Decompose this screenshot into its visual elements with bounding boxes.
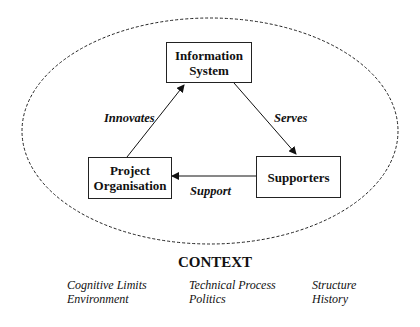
node-label-line1: Project: [94, 163, 167, 178]
context-item: Structure: [312, 278, 356, 292]
context-item: Environment: [67, 292, 147, 306]
context-item: Politics: [189, 292, 276, 306]
context-column-3: Structure History: [312, 278, 356, 306]
node-label: Supporters: [267, 170, 329, 185]
context-item: History: [312, 292, 356, 306]
edge-label-serves: Serves: [274, 111, 307, 126]
node-project-organisation: Project Organisation: [88, 157, 172, 199]
context-item: Cognitive Limits: [67, 278, 147, 292]
context-column-1: Cognitive Limits Environment: [67, 278, 147, 306]
node-label-line2: Organisation: [94, 178, 167, 193]
node-label-line2: System: [175, 63, 243, 78]
context-title: CONTEXT: [0, 254, 420, 271]
node-information-system: Information System: [166, 42, 252, 83]
node-label-line1: Information: [175, 48, 243, 63]
edge-label-support: Support: [190, 184, 231, 199]
node-supporters: Supporters: [256, 156, 341, 198]
context-item: Technical Process: [189, 278, 276, 292]
context-column-2: Technical Process Politics: [189, 278, 276, 306]
edge-label-innovates: Innovates: [104, 111, 155, 126]
